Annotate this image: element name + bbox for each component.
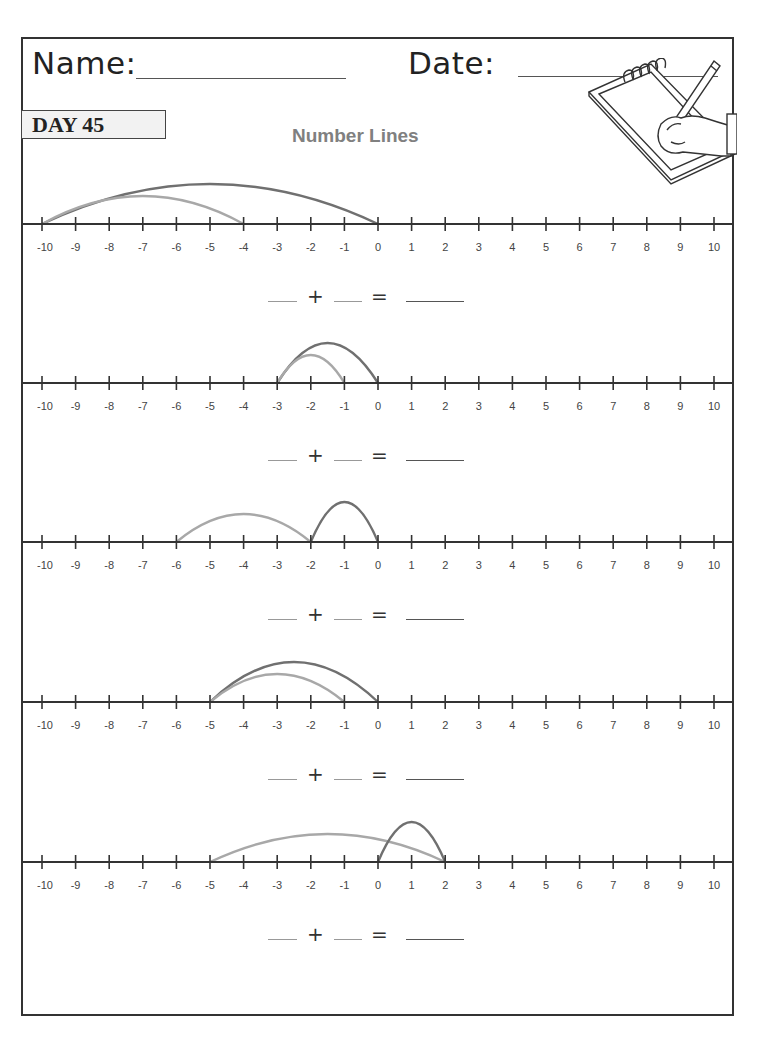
tick-label: -2 xyxy=(306,241,316,253)
tick-label: 9 xyxy=(677,400,683,412)
tick-label: -4 xyxy=(239,559,249,571)
addend-1-blank[interactable] xyxy=(268,779,297,780)
tick-label: -9 xyxy=(71,719,81,731)
tick-label: -2 xyxy=(306,719,316,731)
plus-sign: + xyxy=(307,443,324,467)
tick-label: 0 xyxy=(375,241,381,253)
sum-answer-blank[interactable] xyxy=(406,939,464,940)
tick-label: -4 xyxy=(239,241,249,253)
equals-sign: = xyxy=(371,762,388,786)
sum-answer-blank[interactable] xyxy=(406,460,464,461)
tick-label: 5 xyxy=(543,400,549,412)
tick-label: -10 xyxy=(37,400,53,412)
jump-arc-light xyxy=(210,834,445,862)
tick-label: 5 xyxy=(543,879,549,891)
tick-label: 8 xyxy=(644,241,650,253)
sum-answer-blank[interactable] xyxy=(406,779,464,780)
tick-label: -7 xyxy=(138,719,148,731)
addend-1-blank[interactable] xyxy=(268,301,297,302)
sum-answer-blank[interactable] xyxy=(406,619,464,620)
tick-label: 4 xyxy=(509,879,515,891)
tick-label: 8 xyxy=(644,559,650,571)
tick-label: -3 xyxy=(272,559,282,571)
tick-label: 3 xyxy=(476,400,482,412)
tick-label: 9 xyxy=(677,241,683,253)
tick-label: 3 xyxy=(476,559,482,571)
tick-label: -2 xyxy=(306,400,316,412)
addend-2-blank[interactable] xyxy=(334,939,362,940)
tick-label: -9 xyxy=(71,400,81,412)
tick-label: -6 xyxy=(172,241,182,253)
date-label: Date: xyxy=(408,45,495,81)
tick-label: 4 xyxy=(509,241,515,253)
tick-label: -1 xyxy=(340,559,350,571)
tick-label: -9 xyxy=(71,879,81,891)
tick-label: -6 xyxy=(172,559,182,571)
addend-2-blank[interactable] xyxy=(334,460,362,461)
tick-label: -6 xyxy=(172,400,182,412)
tick-label: 4 xyxy=(509,719,515,731)
tick-label: 5 xyxy=(543,719,549,731)
equation-row: += xyxy=(0,604,768,628)
tick-label: 1 xyxy=(409,400,415,412)
sum-answer-blank[interactable] xyxy=(406,301,464,302)
tick-label: 5 xyxy=(543,241,549,253)
tick-label: 0 xyxy=(375,559,381,571)
tick-label: 3 xyxy=(476,879,482,891)
tick-label: 5 xyxy=(543,559,549,571)
tick-label: -8 xyxy=(104,719,114,731)
tick-label: 2 xyxy=(442,400,448,412)
tick-label: 3 xyxy=(476,719,482,731)
tick-label: -1 xyxy=(340,879,350,891)
tick-label: -8 xyxy=(104,400,114,412)
tick-label: -10 xyxy=(37,241,53,253)
tick-label: 8 xyxy=(644,400,650,412)
number-line-graphic xyxy=(0,482,768,562)
tick-label: -2 xyxy=(306,559,316,571)
tick-label: -3 xyxy=(272,400,282,412)
tick-label: -2 xyxy=(306,879,316,891)
tick-label: 0 xyxy=(375,719,381,731)
tick-label: 1 xyxy=(409,719,415,731)
tick-label: 7 xyxy=(610,400,616,412)
tick-label: -7 xyxy=(138,879,148,891)
equals-sign: = xyxy=(371,443,388,467)
tick-label: 10 xyxy=(708,241,720,253)
tick-label: -3 xyxy=(272,241,282,253)
tick-label: -1 xyxy=(340,400,350,412)
addend-2-blank[interactable] xyxy=(334,301,362,302)
tick-label: 7 xyxy=(610,719,616,731)
equals-sign: = xyxy=(371,284,388,308)
tick-label: 9 xyxy=(677,719,683,731)
tick-label: -5 xyxy=(205,559,215,571)
tick-label: 6 xyxy=(577,400,583,412)
tick-label: -8 xyxy=(104,241,114,253)
tick-label: 10 xyxy=(708,400,720,412)
tick-label: -4 xyxy=(239,400,249,412)
addend-1-blank[interactable] xyxy=(268,460,297,461)
addend-1-blank[interactable] xyxy=(268,939,297,940)
tick-label: -6 xyxy=(172,879,182,891)
tick-label: -10 xyxy=(37,559,53,571)
tick-label: 1 xyxy=(409,241,415,253)
tick-label: -7 xyxy=(138,241,148,253)
addend-2-blank[interactable] xyxy=(334,619,362,620)
addend-1-blank[interactable] xyxy=(268,619,297,620)
tick-label: -9 xyxy=(71,241,81,253)
number-line-graphic xyxy=(0,323,768,403)
tick-label: -1 xyxy=(340,241,350,253)
plus-sign: + xyxy=(307,762,324,786)
day-badge-text: DAY 45 xyxy=(32,112,104,138)
tick-label: -4 xyxy=(239,879,249,891)
tick-label: -3 xyxy=(272,879,282,891)
tick-label: -1 xyxy=(340,719,350,731)
name-label: Name: xyxy=(32,45,136,81)
name-field[interactable] xyxy=(136,78,346,79)
tick-label: 6 xyxy=(577,879,583,891)
equation-row: += xyxy=(0,924,768,948)
tick-label: 10 xyxy=(708,719,720,731)
tick-label: 8 xyxy=(644,719,650,731)
tick-label: 6 xyxy=(577,719,583,731)
tick-label: 0 xyxy=(375,879,381,891)
addend-2-blank[interactable] xyxy=(334,779,362,780)
